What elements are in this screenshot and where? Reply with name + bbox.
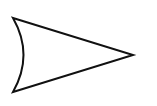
arrowhead-shape [13,18,133,92]
diagram-canvas [0,0,157,106]
